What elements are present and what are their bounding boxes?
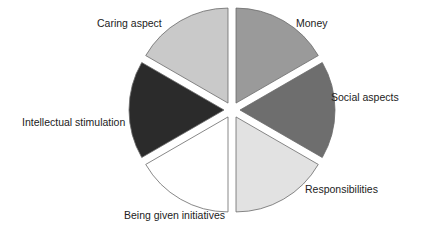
pie-slices: [129, 8, 335, 212]
slice-label-caring-aspect: Caring aspect: [97, 17, 162, 29]
slice-label-being-given-initiatives: Being given initiatives: [124, 209, 225, 221]
pie-chart: MoneySocial aspectsResponsibilitiesBeing…: [0, 0, 421, 232]
slice-label-money: Money: [296, 17, 328, 29]
slice-label-intellectual-stimulation: Intellectual stimulation: [22, 116, 125, 128]
slice-label-social-aspects: Social aspects: [331, 91, 399, 103]
slice-label-responsibilities: Responsibilities: [305, 183, 378, 195]
